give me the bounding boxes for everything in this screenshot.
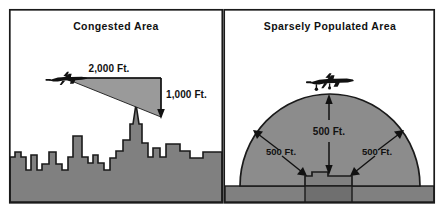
panel-sparsely-populated: 500 Ft. 500 Ft. 500 Ft. <box>224 9 435 204</box>
panel-sparse-title: Sparsely Populated Area <box>264 20 397 32</box>
building-base <box>305 186 352 202</box>
label-500-ft-left: 500 Ft. <box>266 146 296 157</box>
panel-congested: 2,000 Ft. 1,000 Ft. Congested Area <box>9 9 223 204</box>
label-2000-ft: 2,000 Ft. <box>89 63 130 74</box>
label-500-ft-vertical: 500 Ft. <box>313 126 346 137</box>
panel-congested-title: Congested Area <box>73 20 159 32</box>
minimum-safe-altitudes-figure: 2,000 Ft. 1,000 Ft. Congested Area <box>0 0 444 212</box>
label-1000-ft: 1,000 Ft. <box>166 89 207 100</box>
label-500-ft-right: 500 Ft. <box>362 146 392 157</box>
diagram-canvas: 2,000 Ft. 1,000 Ft. Congested Area <box>0 0 444 212</box>
